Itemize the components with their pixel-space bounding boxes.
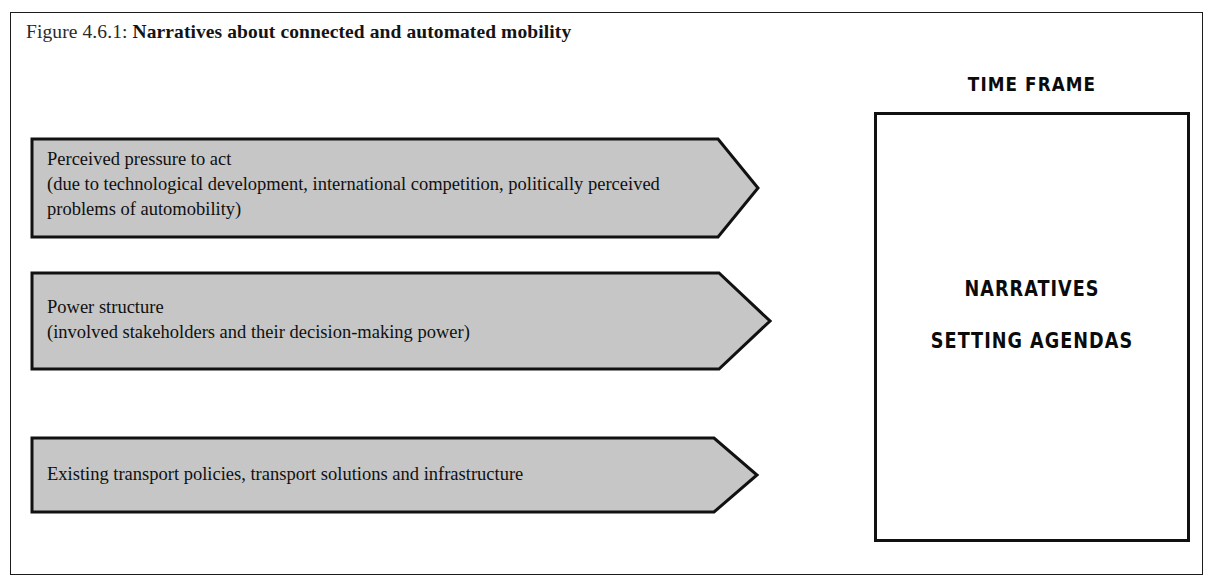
arrow-label-line: problems of automobility) — [47, 197, 660, 222]
time-frame-content: NARRATIVES SETTING AGENDAS — [877, 277, 1187, 353]
arrow-label-line: Power structure — [47, 295, 470, 320]
arrow-label-line: (involved stakeholders and their decisio… — [47, 320, 470, 345]
arrow-label-line: Existing transport policies, transport s… — [47, 462, 523, 487]
arrow-label-power-structure: Power structure (involved stakeholders a… — [47, 295, 470, 345]
time-frame-line-setting-agendas: SETTING AGENDAS — [902, 329, 1162, 353]
figure-root: Figure 4.6.1: Narratives about connected… — [0, 0, 1212, 588]
arrow-label-line: Perceived pressure to act — [47, 147, 660, 172]
time-frame-box[interactable]: NARRATIVES SETTING AGENDAS — [874, 112, 1190, 542]
time-frame-title: TIME FRAME — [899, 72, 1164, 96]
figure-caption: Figure 4.6.1: Narratives about connected… — [26, 20, 571, 44]
arrow-label-existing-transport-policies: Existing transport policies, transport s… — [47, 462, 523, 487]
time-frame-line-narratives: NARRATIVES — [902, 277, 1162, 301]
arrow-label-perceived-pressure-to-act: Perceived pressure to act (due to techno… — [47, 147, 660, 222]
arrow-label-line: (due to technological development, inter… — [47, 172, 660, 197]
figure-caption-title: Narratives about connected and automated… — [133, 21, 572, 42]
figure-caption-label: Figure 4.6.1: — [26, 21, 128, 42]
